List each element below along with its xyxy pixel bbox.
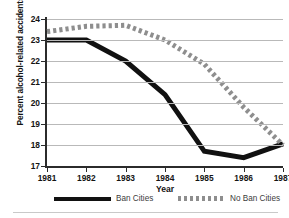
y-axis-tick-label: 18 [14, 140, 40, 150]
x-axis-tick-label: 1981 [27, 173, 67, 183]
x-axis-tick-mark [244, 168, 245, 172]
x-axis-line [45, 166, 283, 168]
chart-legend: Ban Cities No Ban Cities [0, 194, 289, 208]
x-axis-tick-mark [126, 168, 127, 172]
x-axis-tick-label: 1987 [263, 173, 289, 183]
gridlines [47, 19, 283, 166]
x-axis-tick-mark [47, 168, 48, 172]
plot-area [47, 19, 283, 166]
y-axis-tick-mark [41, 145, 45, 146]
gridline [47, 82, 283, 83]
x-axis-tick-mark [86, 168, 87, 172]
dotted-line-swatch-icon [178, 196, 225, 201]
y-axis-tick-label: 24 [14, 14, 40, 24]
gridline [47, 145, 283, 146]
y-axis-tick-label: 21 [14, 77, 40, 87]
gridline [47, 103, 283, 104]
y-axis-tick-label: 20 [14, 98, 40, 108]
legend-item-no-ban-cities: No Ban Cities [178, 194, 280, 203]
y-axis-tick-labels: 1718192021222324 [10, 19, 40, 166]
solid-line-swatch-icon [54, 197, 111, 201]
x-axis-tick-label: 1984 [145, 173, 185, 183]
x-axis-tick-mark [204, 168, 205, 172]
legend-label-ban-cities: Ban Cities [116, 194, 153, 203]
y-axis-tick-mark [41, 124, 45, 125]
footer-divider [13, 212, 278, 213]
y-axis-tick-mark [41, 103, 45, 104]
legend-item-ban-cities: Ban Cities [54, 194, 153, 203]
legend-label-no-ban-cities: No Ban Cities [230, 194, 280, 203]
y-axis-tick-label: 17 [14, 161, 40, 171]
y-axis-tick-label: 22 [14, 56, 40, 66]
x-axis-tick-mark [283, 168, 284, 172]
x-axis-tick-label: 1986 [224, 173, 264, 183]
gridline [47, 124, 283, 125]
y-axis-tick-label: 23 [14, 35, 40, 45]
y-axis-tick-mark [41, 82, 45, 83]
gridline [47, 19, 283, 20]
x-axis-tick-label: 1983 [106, 173, 146, 183]
x-axis-title: Year [47, 184, 283, 194]
x-axis-tick-label: 1985 [184, 173, 224, 183]
y-axis-tick-mark [41, 61, 45, 62]
line-chart-figure: Percent alcohol-related accidents 171819… [0, 0, 289, 218]
x-axis-tick-label: 1982 [66, 173, 106, 183]
y-axis-tick-mark [41, 166, 45, 167]
gridline [47, 61, 283, 62]
y-axis-tick-mark [41, 40, 45, 41]
y-axis-tick-mark [41, 19, 45, 20]
x-axis-tick-mark [165, 168, 166, 172]
gridline [47, 40, 283, 41]
y-axis-tick-label: 19 [14, 119, 40, 129]
